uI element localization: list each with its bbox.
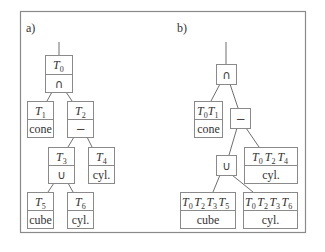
node-T4: T4 cyl.	[89, 148, 115, 184]
edge-or-cube	[213, 175, 220, 192]
edge-and-cone	[211, 84, 220, 101]
svg-text:T0T2T4: T0T2T4	[252, 150, 288, 166]
difference-icon: −	[75, 122, 85, 136]
panel-b: b) ∩ T0T1 cone − ∪	[177, 21, 298, 229]
csg-tree-figure: a) T0 ∩ T1 cone T2 −	[0, 0, 325, 252]
edge-minus-cyl4	[246, 128, 259, 147]
edge-T2-T4	[87, 137, 92, 147]
node-T5: T5 cube	[28, 193, 54, 229]
union-icon: ∪	[222, 159, 231, 173]
edge-and-minus	[230, 84, 238, 108]
edge-T2-T3	[68, 137, 74, 147]
primitive-cone: cone	[29, 122, 52, 136]
node-T2: T2 −	[68, 102, 94, 138]
edge-T0-T2	[66, 92, 72, 101]
difference-icon: −	[235, 112, 245, 126]
primitive-cube: cube	[197, 213, 220, 227]
panel-b-label: b)	[177, 21, 187, 35]
node-cube: T0T2T3T5 cube	[181, 193, 236, 229]
node-union: ∪	[217, 156, 237, 176]
node-T3: T3 ∪	[49, 148, 75, 184]
node-cone: T0T1 cone	[195, 102, 223, 138]
node-T6: T6 cyl.	[68, 193, 94, 229]
primitive-cone: cone	[197, 122, 220, 136]
primitive-cube: cube	[29, 213, 52, 227]
node-cylinder-4: T0T2T4 cyl.	[245, 148, 298, 184]
edge-T0-T1	[47, 92, 52, 101]
panel-a: a) T0 ∩ T1 cone T2 −	[26, 21, 115, 229]
node-intersection: ∩	[217, 65, 237, 85]
edge-T3-T6	[68, 183, 73, 192]
node-difference: −	[231, 109, 251, 129]
panel-a-label: a)	[26, 21, 35, 35]
intersection-icon: ∩	[55, 77, 64, 91]
edge-minus-or	[229, 128, 237, 155]
edge-T3-T5	[48, 183, 54, 192]
primitive-cylinder: cyl.	[262, 213, 280, 227]
primitive-cylinder: cyl.	[72, 213, 90, 227]
node-T0: T0 ∩	[46, 56, 73, 93]
node-cylinder-6: T0T2T3T6 cyl.	[244, 193, 298, 229]
primitive-cylinder: cyl.	[93, 168, 111, 182]
union-icon: ∪	[57, 168, 66, 182]
intersection-icon: ∩	[222, 68, 231, 82]
primitive-cylinder: cyl.	[262, 168, 280, 182]
node-T1: T1 cone	[28, 102, 54, 138]
